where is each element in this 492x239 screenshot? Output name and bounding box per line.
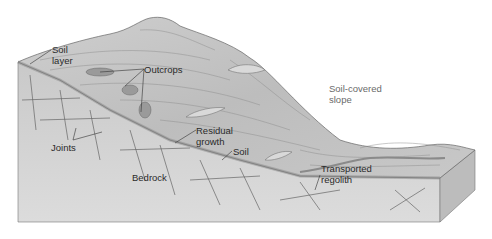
block-diagram: Soil layer Outcrops Joints Residual grow…	[0, 0, 492, 239]
label-transported-regolith: Transported regolith	[321, 163, 372, 185]
label-joints: Joints	[51, 142, 76, 153]
label-outcrops: Outcrops	[144, 64, 183, 75]
label-bedrock: Bedrock	[132, 172, 167, 183]
label-soil: Soil	[233, 146, 249, 157]
label-residual-growth: Residual growth	[196, 125, 233, 147]
label-soil-covered-slope: Soil-covered slope	[329, 83, 382, 105]
label-soil-layer: Soil layer	[52, 44, 73, 66]
block-diagram-illustration	[0, 0, 492, 239]
